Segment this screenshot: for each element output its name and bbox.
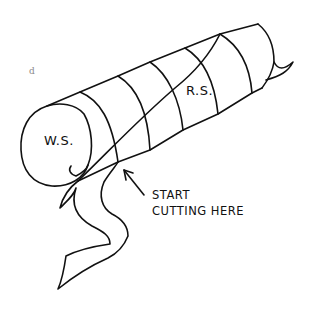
right-side-label: R.S. — [186, 83, 213, 98]
ring-4 — [185, 48, 218, 114]
ring-5 — [220, 34, 252, 93]
hanging-strip — [58, 162, 128, 289]
instruction-line-2: CUTTING HERE — [152, 204, 244, 218]
arrow-shaft — [124, 170, 144, 195]
ring-2 — [118, 76, 150, 150]
ring-1 — [80, 92, 118, 162]
instruction-line-1: START — [152, 188, 190, 202]
far-tail-flap — [266, 62, 293, 80]
wrong-side-label: W.S. — [44, 133, 74, 148]
panel-label: d — [29, 66, 35, 76]
tube-bottom-edge — [78, 88, 262, 181]
fabric-tube-drawing — [0, 0, 309, 327]
diagram-canvas: d W.S. R.S. START CUTTING HERE — [0, 0, 309, 327]
tube-top-edge — [47, 24, 258, 106]
